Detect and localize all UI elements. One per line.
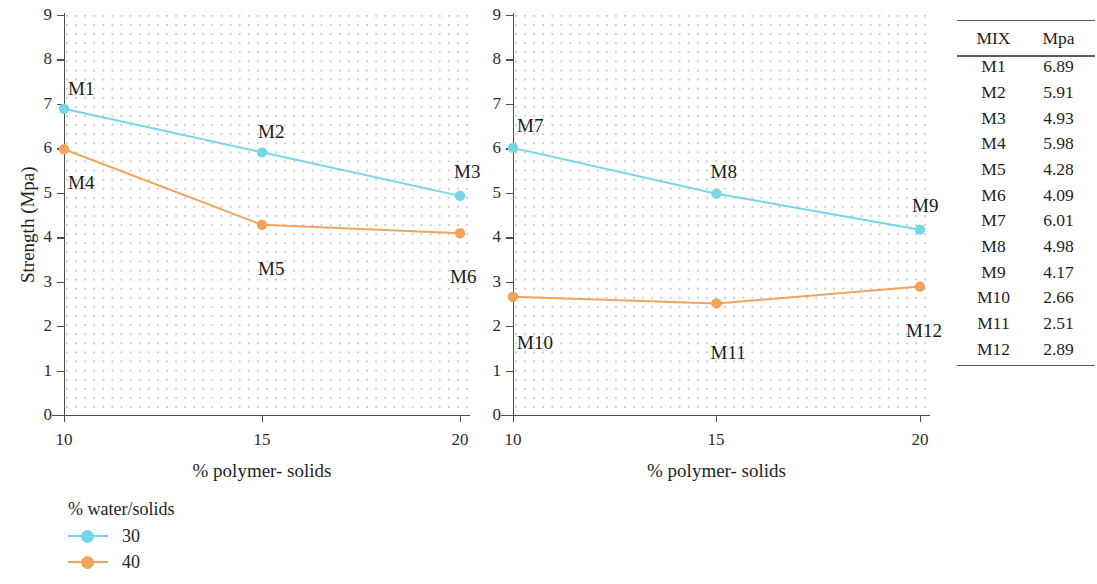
- table-cell: 2.51: [1026, 311, 1091, 337]
- data-point: [915, 224, 925, 234]
- table-cell: M7: [961, 208, 1026, 234]
- y-tick-label: 8: [20, 50, 52, 67]
- data-point: [257, 147, 267, 157]
- table-column-header: Mpa: [1026, 24, 1091, 54]
- legend-title: % water/solids: [68, 500, 174, 518]
- y-tick: [57, 371, 64, 372]
- y-tick: [506, 371, 513, 372]
- table-cell: M8: [961, 234, 1026, 260]
- x-tick: [920, 415, 921, 422]
- y-tick: [506, 326, 513, 327]
- y-tick: [506, 193, 513, 194]
- table-cell: M5: [961, 157, 1026, 183]
- table-row: M102.66: [961, 285, 1091, 311]
- table-cell: 4.98: [1026, 234, 1091, 260]
- y-tick-label: 3: [20, 273, 52, 290]
- data-point: [711, 298, 721, 308]
- point-label-M8: M8: [711, 162, 737, 181]
- data-point: [508, 292, 518, 302]
- legend-label: 40: [122, 553, 140, 571]
- mix-table: MIXMpaM16.89M25.91M34.93M45.98M54.28M64.…: [961, 24, 1091, 362]
- y-tick: [506, 15, 513, 16]
- y-tick-label: 3: [469, 273, 501, 290]
- table-cell: 2.66: [1026, 285, 1091, 311]
- data-point: [915, 281, 925, 291]
- y-tick: [57, 59, 64, 60]
- x-tick-label: 10: [34, 431, 94, 448]
- point-label-M7: M7: [517, 116, 543, 135]
- y-tick: [506, 237, 513, 238]
- y-tick-label: 0: [469, 406, 501, 423]
- y-tick-label: 5: [20, 184, 52, 201]
- table-cell: 2.89: [1026, 336, 1091, 362]
- table-cell: M4: [961, 131, 1026, 157]
- table-cell: M3: [961, 106, 1026, 132]
- table-header-row: MIXMpa: [961, 24, 1091, 54]
- y-tick: [57, 148, 64, 149]
- x-tick-label: 20: [430, 431, 490, 448]
- y-axis-line: [513, 13, 514, 416]
- table-cell: M9: [961, 259, 1026, 285]
- table-rule-header: [957, 55, 1095, 56]
- x-axis-title: % polymer- solids: [587, 461, 847, 480]
- y-tick-label: 6: [20, 139, 52, 156]
- y-tick: [506, 415, 513, 416]
- y-tick-label: 1: [469, 362, 501, 379]
- table-column-header: MIX: [961, 24, 1026, 54]
- legend: % water/solids 30 40: [60, 496, 320, 576]
- y-tick-label: 6: [469, 139, 501, 156]
- data-point: [59, 144, 69, 154]
- table-row: M76.01: [961, 208, 1091, 234]
- x-tick: [716, 415, 717, 422]
- series-line-40: [64, 149, 460, 233]
- data-point: [455, 228, 465, 238]
- y-tick-label: 9: [20, 6, 52, 23]
- legend-marker-40: [68, 555, 108, 569]
- plot-grid: [515, 15, 930, 415]
- table-row: M94.17: [961, 259, 1091, 285]
- y-axis-line: [64, 13, 65, 416]
- y-axis-title: Strength (Mpa): [18, 166, 37, 283]
- y-tick: [506, 59, 513, 60]
- series-line-30: [513, 148, 920, 230]
- mix-table-container: MIXMpaM16.89M25.91M34.93M45.98M54.28M64.…: [957, 14, 1097, 426]
- point-label-M2: M2: [258, 122, 284, 141]
- table-row: M122.89: [961, 336, 1091, 362]
- y-tick-label: 7: [20, 95, 52, 112]
- series-line-40: [513, 287, 920, 304]
- y-tick-label: 9: [469, 6, 501, 23]
- point-label-M10: M10: [517, 333, 553, 352]
- table-cell: 4.09: [1026, 182, 1091, 208]
- y-tick: [57, 326, 64, 327]
- table-cell: 6.89: [1026, 54, 1091, 80]
- table-cell: 5.98: [1026, 131, 1091, 157]
- y-tick-label: 4: [20, 228, 52, 245]
- table-cell: M12: [961, 336, 1026, 362]
- data-point: [455, 191, 465, 201]
- table-rule-bottom: [957, 365, 1095, 366]
- table-cell: M11: [961, 311, 1026, 337]
- table-row: M34.93: [961, 106, 1091, 132]
- point-label-M3: M3: [454, 162, 480, 181]
- x-axis-title: % polymer- solids: [132, 461, 392, 480]
- x-tick-label: 15: [686, 431, 746, 448]
- table-cell: 4.28: [1026, 157, 1091, 183]
- x-tick-label: 15: [232, 431, 292, 448]
- table-cell: 5.91: [1026, 80, 1091, 106]
- table-row: M64.09: [961, 182, 1091, 208]
- point-label-M9: M9: [912, 196, 938, 215]
- y-tick-label: 4: [469, 228, 501, 245]
- y-tick: [57, 104, 64, 105]
- y-tick: [506, 104, 513, 105]
- legend-item-40[interactable]: 40: [68, 552, 140, 572]
- point-label-M4: M4: [68, 173, 94, 192]
- series-line-30: [64, 109, 460, 196]
- table-cell: M10: [961, 285, 1026, 311]
- y-tick: [506, 282, 513, 283]
- table-cell: 4.17: [1026, 259, 1091, 285]
- y-tick: [57, 193, 64, 194]
- y-tick-label: 2: [469, 317, 501, 334]
- legend-item-30[interactable]: 30: [68, 526, 140, 546]
- y-tick-label: 1: [20, 362, 52, 379]
- table-cell: M6: [961, 182, 1026, 208]
